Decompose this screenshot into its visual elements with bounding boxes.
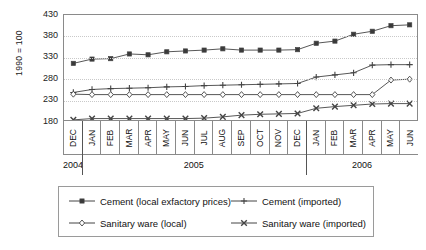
data-point-plus xyxy=(332,72,338,78)
y-tick-mark xyxy=(63,101,64,102)
data-point-plus xyxy=(108,86,114,92)
legend-label: Cement (local exfactory prices) xyxy=(97,196,231,207)
data-point-square xyxy=(277,48,281,52)
data-point-plus xyxy=(351,70,357,76)
x-axis-month-cell: NOV xyxy=(270,121,289,155)
x-axis-month-cell: JUN xyxy=(400,121,419,155)
data-point-diamond xyxy=(351,92,356,98)
data-point-square xyxy=(295,48,299,52)
x-axis-month-label: JUN xyxy=(180,130,189,147)
data-point-plus xyxy=(369,62,375,68)
data-point-diamond xyxy=(239,92,244,98)
data-point-square xyxy=(71,61,75,65)
x-axis-month-cell: JUN xyxy=(176,121,195,155)
legend-symbol-diamond xyxy=(67,216,97,230)
data-point-square xyxy=(165,50,169,54)
plot-area xyxy=(63,14,418,121)
data-point-diamond xyxy=(276,92,281,98)
x-axis-month-label: APR xyxy=(143,129,152,146)
x-axis-month-cell: DEC xyxy=(64,121,83,155)
x-axis-year-label: 2005 xyxy=(82,155,306,175)
x-axis-month-label: FEB xyxy=(330,130,339,147)
y-tick-mark xyxy=(63,79,64,80)
y-tick-mark xyxy=(63,58,64,59)
series-0 xyxy=(71,23,412,66)
data-point-diamond xyxy=(127,92,132,98)
x-axis-month-label: FEB xyxy=(106,130,115,147)
legend-symbol-cross xyxy=(229,216,259,230)
data-point-square xyxy=(258,48,262,52)
x-axis-month-label: MAR xyxy=(349,129,358,148)
data-point-diamond xyxy=(183,92,188,98)
year-separator xyxy=(306,121,307,175)
y-tick-label: 380 xyxy=(28,31,58,40)
chart-legend: Cement (local exfactory prices)Cement (i… xyxy=(58,186,374,237)
x-axis-month-label: NOV xyxy=(274,129,283,147)
data-point-square xyxy=(389,24,393,28)
data-point-square xyxy=(80,199,84,203)
data-point-diamond xyxy=(220,92,225,98)
data-point-plus xyxy=(145,85,151,91)
x-axis-month-cell: OCT xyxy=(251,121,270,155)
y-axis-title: 1990 = 100 xyxy=(14,8,24,98)
data-point-square xyxy=(183,49,187,53)
gridline xyxy=(64,101,417,102)
legend-label: Sanitary ware (local) xyxy=(97,218,187,229)
x-axis-month-cell: FEB xyxy=(326,121,345,155)
legend-item[interactable]: Cement (local exfactory prices) xyxy=(67,191,231,211)
x-axis-month-label: JAN xyxy=(311,130,320,146)
x-axis-year-label: 2006 xyxy=(306,155,418,175)
x-axis-month-cell: FEB xyxy=(101,121,120,155)
data-point-diamond xyxy=(370,92,375,98)
chart-root: 1990 = 100 180230280330380430 DECJANFEBM… xyxy=(0,0,426,250)
x-axis-month-label: JAN xyxy=(87,130,96,146)
y-tick-label: 330 xyxy=(28,52,58,61)
x-axis-month-label: APR xyxy=(367,129,376,146)
legend-item[interactable]: Sanitary ware (imported) xyxy=(229,213,366,233)
data-point-square xyxy=(202,48,206,52)
y-tick-mark xyxy=(63,36,64,37)
legend-item[interactable]: Cement (imported) xyxy=(229,191,341,211)
x-axis-month-cell: AUG xyxy=(213,121,232,155)
x-axis-month-cell: DEC xyxy=(288,121,307,155)
gridline xyxy=(64,36,417,37)
data-point-plus xyxy=(257,81,263,87)
data-point-plus xyxy=(294,80,300,86)
data-point-plus xyxy=(201,83,207,89)
data-point-diamond xyxy=(295,92,300,98)
legend-marker-icon xyxy=(67,194,97,208)
data-point-plus xyxy=(388,62,394,68)
x-axis-month-label: MAY xyxy=(386,129,395,147)
x-axis-month-cell: SEP xyxy=(232,121,251,155)
x-axis-month-label: JUN xyxy=(405,130,414,147)
legend-item[interactable]: Sanitary ware (local) xyxy=(67,213,187,233)
y-tick-label: 280 xyxy=(28,74,58,83)
data-point-diamond xyxy=(314,92,319,98)
x-axis-month-label: MAR xyxy=(124,129,133,148)
gridline xyxy=(64,58,417,59)
data-point-diamond xyxy=(258,92,263,98)
x-axis-month-label: DEC xyxy=(68,129,77,147)
data-point-square xyxy=(370,29,374,33)
data-point-square xyxy=(314,41,318,45)
x-axis-month-label: DEC xyxy=(293,129,302,147)
data-point-square xyxy=(333,39,337,43)
data-point-plus xyxy=(276,81,282,87)
legend-label: Sanitary ware (imported) xyxy=(259,218,366,229)
data-point-plus xyxy=(241,198,247,204)
x-axis-year-band: 200420052006 xyxy=(50,155,418,175)
legend-marker-icon xyxy=(229,194,259,208)
data-point-square xyxy=(146,53,150,57)
x-axis-month-cell: MAY xyxy=(382,121,401,155)
data-point-diamond xyxy=(202,92,207,98)
y-tick-label: 430 xyxy=(28,10,58,19)
y-tick-label: 230 xyxy=(28,95,58,104)
series-lines xyxy=(64,15,418,121)
data-point-square xyxy=(408,23,412,27)
data-point-plus xyxy=(126,85,132,91)
data-point-square xyxy=(221,47,225,51)
x-axis-year-label: 2004 xyxy=(63,155,82,175)
data-point-diamond xyxy=(79,220,84,226)
x-axis-month-label: SEP xyxy=(236,129,245,146)
x-axis-month-band: DECJANFEBMARAPRMAYJUNJULAUGSEPOCTNOVDECJ… xyxy=(63,121,418,155)
